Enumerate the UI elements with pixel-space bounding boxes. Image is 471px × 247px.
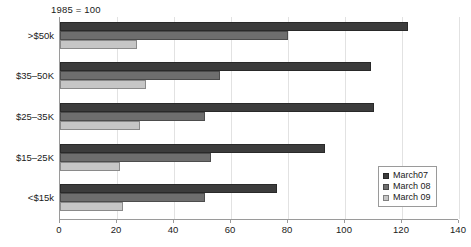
bar bbox=[60, 193, 205, 202]
legend-swatch-icon bbox=[383, 184, 389, 190]
bar bbox=[60, 22, 408, 31]
category-label: $25–35K bbox=[16, 111, 54, 122]
category-label: >$50k bbox=[28, 30, 54, 41]
bar bbox=[60, 62, 371, 71]
bar-chart: 1985 = 100 >$50k$35–50K$25–35K$15–25K<$1… bbox=[0, 0, 471, 247]
x-tick-mark bbox=[401, 220, 402, 223]
x-tick-label: 80 bbox=[282, 224, 293, 235]
legend-label: March 09 bbox=[393, 192, 431, 203]
legend-item: March07 bbox=[383, 170, 431, 181]
x-tick-mark bbox=[230, 220, 231, 223]
x-tick-mark bbox=[344, 220, 345, 223]
bar bbox=[60, 202, 123, 211]
legend-item: March 09 bbox=[383, 192, 431, 203]
bar bbox=[60, 162, 120, 171]
category-label: <$15k bbox=[28, 192, 54, 203]
chart-title: 1985 = 100 bbox=[51, 4, 101, 15]
x-tick-mark bbox=[173, 220, 174, 223]
legend-swatch-icon bbox=[383, 195, 389, 201]
bar bbox=[60, 103, 374, 112]
bar bbox=[60, 153, 211, 162]
chart-legend: March07March 08March 09 bbox=[378, 166, 437, 207]
bar bbox=[60, 144, 325, 153]
x-tick-mark bbox=[458, 220, 459, 223]
x-tick-label: 0 bbox=[56, 224, 61, 235]
bar bbox=[60, 184, 277, 193]
x-tick-label: 120 bbox=[393, 224, 409, 235]
x-tick-label: 20 bbox=[111, 224, 122, 235]
bar bbox=[60, 112, 205, 121]
x-tick-label: 60 bbox=[225, 224, 236, 235]
category-label: $15–25K bbox=[16, 152, 54, 163]
x-axis: 020406080100120140 bbox=[59, 220, 458, 242]
x-tick-mark bbox=[59, 220, 60, 223]
bar bbox=[60, 71, 220, 80]
bar bbox=[60, 40, 137, 49]
x-tick-label: 140 bbox=[450, 224, 466, 235]
legend-swatch-icon bbox=[383, 173, 389, 179]
x-tick-mark bbox=[287, 220, 288, 223]
bar-group bbox=[60, 22, 458, 49]
bar bbox=[60, 80, 146, 89]
bar bbox=[60, 31, 288, 40]
x-tick-label: 100 bbox=[336, 224, 352, 235]
legend-label: March 08 bbox=[393, 181, 431, 192]
category-label: $35–50K bbox=[16, 70, 54, 81]
x-tick-mark bbox=[116, 220, 117, 223]
bar-group bbox=[60, 62, 458, 89]
bar bbox=[60, 121, 140, 130]
legend-label: March07 bbox=[393, 170, 428, 181]
legend-item: March 08 bbox=[383, 181, 431, 192]
x-tick-label: 40 bbox=[168, 224, 179, 235]
gridline bbox=[459, 17, 460, 219]
bar-group bbox=[60, 103, 458, 130]
